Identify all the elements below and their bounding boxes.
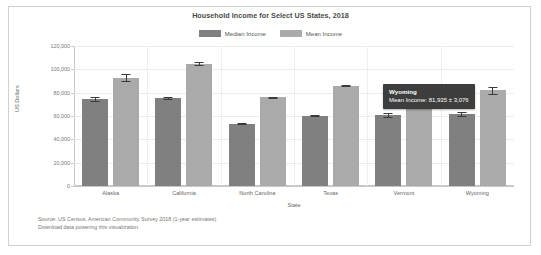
- bar-group: [294, 46, 367, 186]
- error-bar-cap-top: [91, 97, 100, 98]
- error-bar-cap-bottom: [268, 98, 277, 99]
- bar[interactable]: [260, 97, 286, 186]
- y-axis-tick-label: 0: [67, 183, 70, 189]
- error-bar-cap-bottom: [342, 86, 351, 87]
- error-bar-cap-bottom: [164, 99, 173, 100]
- error-bar-cap-top: [488, 87, 497, 88]
- x-axis-tick-label: Wyoming: [441, 190, 514, 202]
- error-bar: [457, 112, 466, 116]
- error-bar-cap-bottom: [384, 117, 393, 118]
- bar-group: [74, 46, 147, 186]
- error-bar-cap-top: [384, 113, 393, 114]
- y-axis-title: US Dollars: [14, 85, 20, 112]
- bar[interactable]: [480, 90, 506, 186]
- error-bar: [268, 97, 277, 99]
- bar[interactable]: [449, 114, 475, 186]
- error-bar-line: [492, 87, 493, 94]
- bar[interactable]: [375, 115, 401, 186]
- error-bar: [195, 62, 204, 64]
- footer-source: Source: US Census, American Community Su…: [38, 216, 216, 224]
- error-bar: [164, 97, 173, 99]
- y-axis-tick-label: 120,000: [51, 43, 71, 49]
- y-axis-tick-mark: [71, 186, 74, 187]
- y-axis-tick-label: 100,000: [51, 66, 71, 72]
- error-bar-cap-bottom: [457, 116, 466, 117]
- bar[interactable]: [229, 124, 255, 186]
- y-axis-tick-label: 80,000: [54, 90, 71, 96]
- bar-group: [147, 46, 220, 186]
- bar-group: [441, 46, 514, 186]
- tooltip-body: Mean Income: 81,935 ± 3,076: [389, 96, 469, 105]
- chart-tooltip: Wyoming Mean Income: 81,935 ± 3,076: [383, 84, 475, 109]
- x-axis-tick-label: Texas: [294, 190, 367, 202]
- bar-groups: [74, 46, 514, 186]
- error-bar-cap-top: [195, 62, 204, 63]
- error-bar-cap-bottom: [91, 101, 100, 102]
- error-bar-cap-bottom: [237, 124, 246, 125]
- bar[interactable]: [302, 116, 328, 186]
- y-axis-tick-label: 40,000: [54, 136, 71, 142]
- x-axis-tick-label: California: [147, 190, 220, 202]
- x-axis-tick-label: North Carolina: [221, 190, 294, 202]
- x-axis-tick-labels: AlaskaCaliforniaNorth CarolinaTexasVermo…: [74, 190, 514, 202]
- error-bar-cap-top: [457, 112, 466, 113]
- error-bar-cap-top: [122, 74, 131, 75]
- error-bar: [342, 85, 351, 86]
- bar[interactable]: [333, 86, 359, 186]
- chart-footer: Source: US Census, American Community Su…: [38, 216, 216, 231]
- tooltip-title: Wyoming: [389, 87, 469, 96]
- error-bar: [122, 74, 131, 80]
- error-bar: [91, 97, 100, 101]
- y-axis-tick-label: 20,000: [54, 160, 71, 166]
- y-axis-tick-label: 60,000: [54, 113, 71, 119]
- x-axis-tick-label: Vermont: [367, 190, 440, 202]
- plot-area: 020,00040,00060,00080,000100,000120,000: [74, 46, 514, 186]
- gridline: [74, 186, 514, 187]
- error-bar-cap-bottom: [311, 116, 320, 117]
- error-bar: [384, 113, 393, 116]
- x-axis-tick-label: Alaska: [74, 190, 147, 202]
- error-bar: [488, 87, 497, 94]
- bar[interactable]: [113, 78, 139, 187]
- error-bar: [237, 123, 246, 124]
- bar[interactable]: [155, 98, 181, 186]
- error-bar-cap-bottom: [122, 81, 131, 82]
- x-axis-title: State: [74, 202, 514, 208]
- error-bar: [311, 115, 320, 116]
- error-bar-cap-bottom: [195, 65, 204, 66]
- bar-group: [221, 46, 294, 186]
- bar[interactable]: [186, 64, 212, 187]
- error-bar-cap-bottom: [488, 94, 497, 95]
- bar-group: [367, 46, 440, 186]
- bar[interactable]: [82, 99, 108, 186]
- footer-download-link[interactable]: Download data powering this visualizatio…: [38, 224, 216, 232]
